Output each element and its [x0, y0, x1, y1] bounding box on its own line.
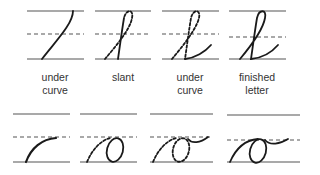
bottom-oval [104, 136, 126, 163]
step-label-1: under curve [20, 71, 90, 97]
step-1-line1: under [20, 71, 90, 84]
step3-under-curve [185, 45, 211, 59]
step-label-4: finished letter [222, 71, 292, 97]
bottom-under-curve [26, 138, 56, 162]
step3-dashed-loop [172, 11, 199, 59]
step-1-line2: curve [20, 84, 90, 97]
step-4-line1: finished [222, 71, 292, 84]
step3b-tail [188, 137, 208, 142]
under-curve-stroke [42, 11, 73, 59]
step-2-line1: slant [88, 71, 158, 84]
step-label-2: slant [88, 71, 158, 84]
top-row-guidelines [27, 11, 286, 59]
step-3-line1: under [155, 71, 225, 84]
step-label-3: under curve [155, 71, 225, 97]
slant-stroke [118, 18, 124, 59]
step-4-line2: letter [222, 84, 292, 97]
finished-letter-l [240, 11, 278, 59]
step-3-line2: curve [155, 84, 225, 97]
